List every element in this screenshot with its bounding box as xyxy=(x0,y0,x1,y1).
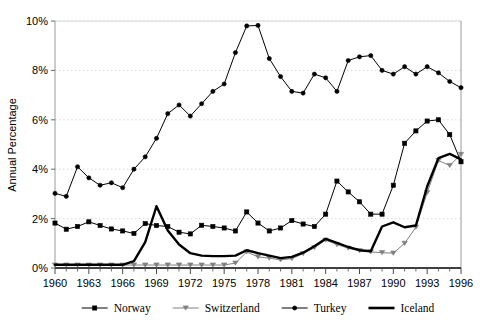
data-point-marker xyxy=(369,53,373,57)
data-point-marker xyxy=(335,179,339,183)
legend-label: Norway xyxy=(114,302,151,315)
x-tick-label: 1960 xyxy=(43,277,67,289)
data-point-marker xyxy=(200,102,204,106)
data-point-marker xyxy=(301,91,305,95)
plot-background xyxy=(55,21,461,268)
data-point-marker xyxy=(293,306,297,310)
data-point-marker xyxy=(75,224,79,228)
data-point-marker xyxy=(357,55,361,59)
data-point-marker xyxy=(233,51,237,55)
data-point-marker xyxy=(290,89,294,93)
x-tick-label: 1969 xyxy=(144,277,168,289)
x-tick-label: 1963 xyxy=(77,277,101,289)
data-point-marker xyxy=(98,183,102,187)
legend-label: Switzerland xyxy=(205,302,260,314)
data-point-marker xyxy=(391,183,395,187)
data-point-marker xyxy=(380,68,384,72)
data-point-marker xyxy=(414,129,418,133)
data-point-marker xyxy=(98,223,102,227)
x-tick-label: 1966 xyxy=(110,277,134,289)
y-tick-label: 4% xyxy=(32,163,48,175)
x-tick-label: 1975 xyxy=(212,277,236,289)
data-point-marker xyxy=(222,226,226,230)
data-point-marker xyxy=(245,24,249,28)
data-point-marker xyxy=(109,181,113,185)
data-point-marker xyxy=(346,190,350,194)
data-point-marker xyxy=(211,89,215,93)
x-tick-label: 1996 xyxy=(449,277,473,289)
data-point-marker xyxy=(380,212,384,216)
legend-label: Turkey xyxy=(314,302,347,315)
data-point-marker xyxy=(290,218,294,222)
legend-item-norway[interactable]: Norway xyxy=(82,302,151,315)
data-point-marker xyxy=(324,212,328,216)
y-tick-label: 2% xyxy=(32,213,48,225)
data-point-marker xyxy=(425,119,429,123)
y-axis-title: Annual Percentage xyxy=(6,98,18,192)
data-point-marker xyxy=(132,167,136,171)
legend-item-turkey[interactable]: Turkey xyxy=(282,302,347,315)
data-point-marker xyxy=(357,200,361,204)
data-point-marker xyxy=(403,141,407,145)
data-point-marker xyxy=(403,65,407,69)
data-point-marker xyxy=(121,229,125,233)
data-point-marker xyxy=(154,223,158,227)
data-point-marker xyxy=(143,221,147,225)
x-tick-label: 1990 xyxy=(381,277,405,289)
data-point-marker xyxy=(166,112,170,116)
data-point-marker xyxy=(233,229,237,233)
y-tick-label: 10% xyxy=(26,15,48,27)
x-tick-label: 1987 xyxy=(347,277,371,289)
data-point-marker xyxy=(53,191,57,195)
data-point-marker xyxy=(87,176,91,180)
data-point-marker xyxy=(222,82,226,86)
data-point-marker xyxy=(109,227,113,231)
data-point-marker xyxy=(143,155,147,159)
y-tick-label: 8% xyxy=(32,64,48,76)
data-point-marker xyxy=(177,103,181,107)
x-tick-label: 1984 xyxy=(313,277,337,289)
data-point-marker xyxy=(391,72,395,76)
x-tick-label: 1993 xyxy=(415,277,439,289)
data-point-marker xyxy=(188,114,192,118)
legend-item-iceland[interactable]: Iceland xyxy=(368,302,434,314)
data-point-marker xyxy=(414,72,418,76)
data-point-marker xyxy=(188,232,192,236)
x-tick-label: 1978 xyxy=(246,277,270,289)
data-point-marker xyxy=(324,76,328,80)
data-point-marker xyxy=(448,79,452,83)
data-point-marker xyxy=(267,229,271,233)
x-tick-label: 1972 xyxy=(178,277,202,289)
data-point-marker xyxy=(278,226,282,230)
data-point-marker xyxy=(459,86,463,90)
data-point-marker xyxy=(132,231,136,235)
legend-item-switzerland[interactable]: Switzerland xyxy=(173,302,260,314)
data-point-marker xyxy=(312,72,316,76)
data-point-marker xyxy=(87,220,91,224)
data-point-marker xyxy=(346,58,350,62)
legend-label: Iceland xyxy=(400,302,434,314)
data-point-marker xyxy=(154,136,158,140)
data-point-marker xyxy=(301,222,305,226)
data-point-marker xyxy=(200,223,204,227)
data-point-marker xyxy=(93,306,97,310)
data-point-marker xyxy=(369,212,373,216)
data-point-marker xyxy=(448,133,452,137)
data-point-marker xyxy=(211,224,215,228)
data-point-marker xyxy=(256,23,260,27)
y-axis-ticks: 0%2%4%6%8%10% xyxy=(26,15,55,274)
y-axis-title-label: Annual Percentage xyxy=(6,98,18,192)
data-point-marker xyxy=(436,71,440,75)
data-point-marker xyxy=(64,227,68,231)
data-point-marker xyxy=(177,230,181,234)
data-point-marker xyxy=(425,65,429,69)
data-point-marker xyxy=(256,221,260,225)
data-point-marker xyxy=(267,56,271,60)
data-point-marker xyxy=(312,224,316,228)
chart-container: 0%2%4%6%8%10% 19601963196619691972197519… xyxy=(0,0,487,327)
data-point-marker xyxy=(436,118,440,122)
data-point-marker xyxy=(278,74,282,78)
data-point-marker xyxy=(335,89,339,93)
y-tick-label: 0% xyxy=(32,262,48,274)
data-point-marker xyxy=(75,165,79,169)
